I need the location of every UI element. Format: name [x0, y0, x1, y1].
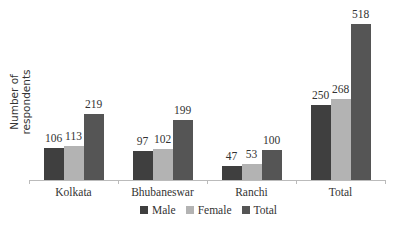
- legend-item-male: Male: [140, 204, 176, 216]
- bar-total-bhubaneswar: [173, 120, 193, 180]
- bar-total-kolkata: [84, 114, 104, 180]
- data-label: 199: [168, 104, 198, 116]
- bar-total-total: [351, 24, 371, 180]
- y-axis-label: Number of respondents: [8, 42, 32, 162]
- bar-female-kolkata: [64, 146, 84, 180]
- bar-chart: Number of respondents 106113219971021994…: [0, 0, 401, 231]
- x-axis-tick: [385, 180, 386, 184]
- bar-male-bhubaneswar: [133, 151, 153, 180]
- x-axis-tick: [29, 180, 30, 184]
- x-tick-label: Ranchi: [207, 186, 296, 198]
- legend: MaleFemaleTotal: [140, 204, 277, 216]
- bar-female-total: [331, 99, 351, 180]
- bar-total-ranchi: [262, 150, 282, 180]
- legend-item-total: Total: [242, 204, 277, 216]
- x-tick-label: Kolkata: [29, 186, 118, 198]
- x-tick-label: Total: [296, 186, 385, 198]
- x-axis-tick: [118, 180, 119, 184]
- legend-swatch: [140, 206, 148, 214]
- legend-label: Male: [152, 204, 176, 216]
- x-axis-tick: [207, 180, 208, 184]
- bar-male-ranchi: [222, 166, 242, 180]
- x-tick-label: Bhubaneswar: [118, 186, 207, 198]
- bar-female-bhubaneswar: [153, 149, 173, 180]
- legend-label: Total: [254, 204, 277, 216]
- bar-male-kolkata: [44, 148, 64, 180]
- data-label: 219: [79, 98, 109, 110]
- legend-swatch: [186, 206, 194, 214]
- legend-item-female: Female: [186, 204, 232, 216]
- x-axis-tick: [296, 180, 297, 184]
- legend-label: Female: [198, 204, 232, 216]
- data-label: 518: [346, 8, 376, 20]
- bar-female-ranchi: [242, 164, 262, 180]
- data-label: 100: [257, 134, 287, 146]
- bar-male-total: [311, 105, 331, 180]
- legend-swatch: [242, 206, 250, 214]
